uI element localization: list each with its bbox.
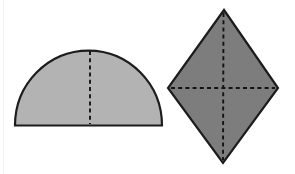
symmetry-shapes-figure [0,0,295,174]
rhombus-symmetry-line-1 [223,13,224,160]
semicircle-shape [15,51,162,126]
figure-page [0,0,295,174]
